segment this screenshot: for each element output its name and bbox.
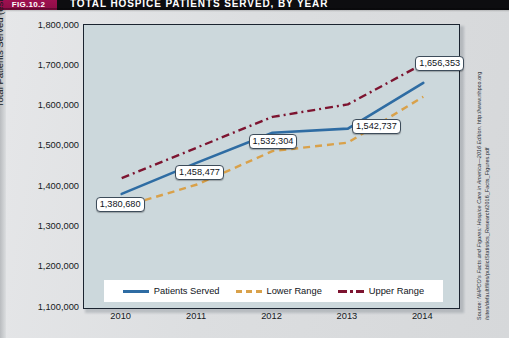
source-note: Source: NHPCO's Facts and Figures: Hospi…	[466, 24, 508, 324]
legend-swatch-dashed	[236, 290, 262, 293]
figure-page: FIG.10.2 TOTAL HOSPICE PATIENTS SERVED, …	[0, 0, 509, 338]
y-tick-label: 1,100,000	[13, 302, 79, 312]
y-axis-ticks: 1,100,0001,200,0001,300,0001,400,0001,50…	[9, 24, 79, 309]
legend-item: Lower Range	[236, 286, 322, 296]
x-tick-label: 2014	[392, 311, 452, 321]
y-tick-label: 1,300,000	[13, 221, 79, 231]
legend-swatch-dash-dot	[338, 290, 364, 293]
y-tick-label: 1,600,000	[13, 100, 79, 110]
y-tick-label: 1,200,000	[13, 261, 79, 271]
x-tick-label: 2013	[317, 311, 377, 321]
banner-shadow	[0, 8, 509, 12]
y-axis-title: Total Patients Served (estimate)	[0, 0, 5, 120]
legend-item: Patients Served	[123, 286, 220, 296]
y-tick-label: 1,500,000	[13, 140, 79, 150]
chart-legend: Patients ServedLower RangeUpper Range	[104, 280, 443, 302]
data-label: 1,532,304	[249, 134, 298, 149]
x-tick-label: 2012	[242, 311, 302, 321]
series-line-lower-range	[122, 97, 424, 207]
legend-item: Upper Range	[338, 286, 424, 296]
series-svg	[84, 25, 461, 307]
legend-label: Patients Served	[154, 286, 220, 296]
y-tick-label: 1,400,000	[13, 181, 79, 191]
legend-label: Lower Range	[267, 286, 322, 296]
x-tick-label: 2011	[166, 311, 226, 321]
legend-swatch-solid	[123, 290, 149, 293]
legend-label: Upper Range	[369, 286, 424, 296]
data-label: 1,458,477	[175, 165, 224, 180]
source-line-2: /sites/default/files/public/Statistics_R…	[483, 24, 491, 320]
y-tick-label: 1,700,000	[13, 60, 79, 70]
y-tick-label: 1,800,000	[13, 20, 79, 30]
x-tick-label: 2010	[91, 311, 151, 321]
x-axis-ticks: 20102011201220132014	[83, 311, 460, 331]
plot-area: 1,380,6801,458,4771,532,3041,542,7371,65…	[83, 24, 460, 309]
data-label: 1,542,737	[352, 119, 401, 134]
source-line-1: Source: NHPCO's Facts and Figures: Hospi…	[475, 24, 483, 320]
data-label: 1,380,680	[96, 197, 145, 212]
data-label: 1,656,353	[415, 56, 464, 71]
